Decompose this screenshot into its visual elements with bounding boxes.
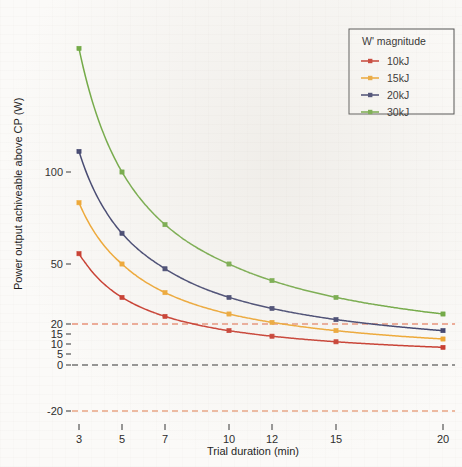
data-point-15kJ-3: [77, 201, 81, 205]
series-line-15kJ: [79, 203, 443, 339]
y-tick-label-100: 100: [45, 166, 63, 178]
legend-swatch-marker-10kJ: [368, 59, 372, 63]
data-point-15kJ-20: [441, 337, 445, 341]
legend-swatch-marker-30kJ: [368, 110, 372, 114]
data-point-10kJ-7: [163, 314, 167, 318]
data-point-30kJ-20: [441, 312, 445, 316]
data-point-20kJ-10: [227, 295, 231, 299]
data-point-30kJ-15: [334, 295, 338, 299]
legend-label-30kJ: 30kJ: [387, 106, 409, 118]
reference-lines-group: [72, 324, 455, 411]
series-15kJ: [77, 201, 445, 341]
data-point-20kJ-3: [77, 149, 81, 153]
data-point-10kJ-5: [120, 295, 124, 299]
x-tick-label-3: 3: [76, 433, 82, 445]
data-point-30kJ-7: [163, 223, 167, 227]
data-point-20kJ-20: [441, 329, 445, 333]
data-point-15kJ-12: [270, 320, 274, 324]
data-point-10kJ-12: [270, 334, 274, 338]
y-tick-label-20: 20: [51, 318, 63, 330]
legend-title: W' magnitude: [362, 35, 426, 47]
legend-label-20kJ: 20kJ: [387, 89, 409, 101]
y-axis-ticks: -200510152050100: [45, 166, 71, 417]
x-tick-label-15: 15: [330, 433, 342, 445]
data-point-15kJ-15: [334, 329, 338, 333]
chart-plot-area: -200510152050100 35710121520 Power outpu…: [0, 0, 462, 467]
chart-legend: W' magnitude 10kJ15kJ20kJ30kJ: [349, 29, 454, 118]
data-point-15kJ-10: [227, 312, 231, 316]
data-point-20kJ-12: [270, 306, 274, 310]
data-point-15kJ-5: [120, 262, 124, 266]
legend-label-10kJ: 10kJ: [387, 55, 409, 67]
y-tick-label--20: -20: [47, 405, 63, 417]
x-tick-label-5: 5: [119, 433, 125, 445]
data-point-10kJ-20: [441, 345, 445, 349]
y-axis-title: Power output achiveable above CP (W): [12, 98, 24, 290]
x-axis-title: Trial duration (min): [207, 445, 299, 457]
legend-swatch-marker-15kJ: [368, 76, 372, 80]
x-tick-label-20: 20: [437, 433, 449, 445]
data-point-10kJ-15: [334, 340, 338, 344]
x-tick-label-10: 10: [223, 433, 235, 445]
data-point-20kJ-5: [120, 231, 124, 235]
data-point-30kJ-3: [77, 46, 81, 50]
legend-swatch-marker-20kJ: [368, 93, 372, 97]
data-point-20kJ-15: [334, 318, 338, 322]
y-tick-label-0: 0: [57, 359, 63, 371]
data-point-10kJ-3: [77, 252, 81, 256]
legend-label-15kJ: 15kJ: [387, 72, 409, 84]
y-tick-label-50: 50: [51, 258, 63, 270]
chart-figure: -200510152050100 35710121520 Power outpu…: [0, 0, 462, 467]
series-line-10kJ: [79, 254, 443, 348]
data-point-30kJ-10: [227, 262, 231, 266]
data-point-10kJ-10: [227, 329, 231, 333]
x-tick-label-7: 7: [162, 433, 168, 445]
series-20kJ: [77, 149, 445, 332]
data-point-30kJ-12: [270, 279, 274, 283]
x-tick-label-12: 12: [266, 433, 278, 445]
data-point-20kJ-7: [163, 267, 167, 271]
x-axis-ticks: 35710121520: [76, 424, 449, 445]
data-point-30kJ-5: [120, 170, 124, 174]
data-point-15kJ-7: [163, 291, 167, 295]
